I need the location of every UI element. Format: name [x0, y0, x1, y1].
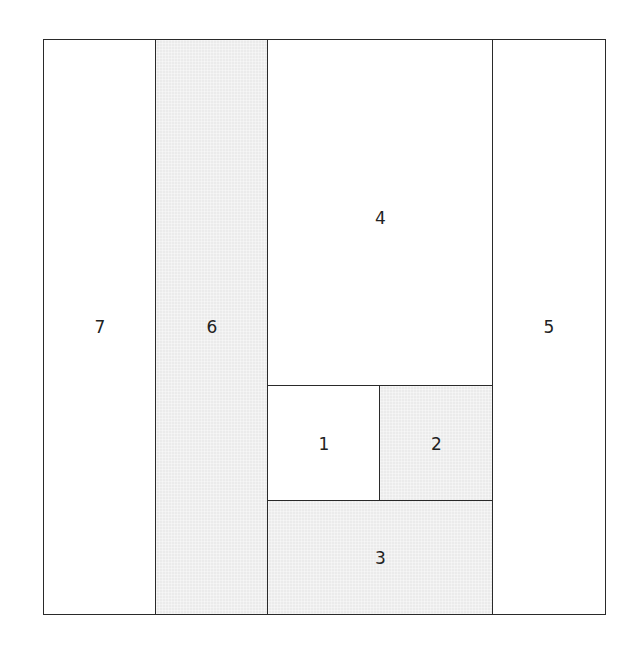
region-1: 1 [267, 385, 381, 502]
region-5-label: 5 [544, 317, 555, 337]
region-7-label: 7 [95, 317, 106, 337]
region-4: 4 [267, 39, 494, 387]
region-3-label: 3 [375, 548, 386, 568]
region-2-label: 2 [431, 434, 442, 454]
region-6: 6 [155, 39, 269, 615]
rectangle-partition-diagram: 7 6 4 1 2 3 5 [0, 0, 634, 645]
region-3: 3 [267, 500, 494, 615]
region-1-label: 1 [319, 434, 330, 454]
region-7: 7 [43, 39, 157, 615]
region-2: 2 [379, 385, 494, 502]
region-6-label: 6 [207, 317, 218, 337]
region-4-label: 4 [375, 208, 386, 228]
region-5: 5 [492, 39, 606, 615]
